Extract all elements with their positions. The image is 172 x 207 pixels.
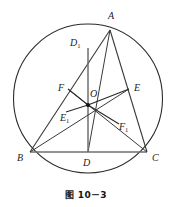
- label-F1: F1: [119, 122, 128, 132]
- label-D: D: [83, 158, 90, 168]
- label-E1-subscript: 1: [66, 117, 69, 124]
- side-AC-line: [110, 30, 147, 152]
- label-E: E: [134, 83, 140, 93]
- label-E1: E1: [60, 113, 69, 123]
- label-D1: D1: [70, 38, 80, 48]
- label-D1-subscript: 1: [77, 42, 80, 49]
- label-C: C: [152, 153, 159, 163]
- segment-OF1-line: [88, 105, 119, 124]
- geometry-figure: A B C D O E F D1 E1 F1 图 10－3: [0, 0, 172, 207]
- label-F1-subscript: 1: [125, 126, 128, 133]
- point-O-marker: [86, 103, 90, 107]
- label-B: B: [17, 153, 23, 163]
- label-F: F: [58, 83, 64, 93]
- figure-caption: 图 10－3: [0, 188, 172, 201]
- label-A: A: [108, 11, 114, 21]
- geometry-canvas: [0, 0, 172, 207]
- segment-OE1-line: [66, 105, 88, 112]
- label-O: O: [90, 89, 97, 99]
- segment-OF-line: [68, 89, 88, 105]
